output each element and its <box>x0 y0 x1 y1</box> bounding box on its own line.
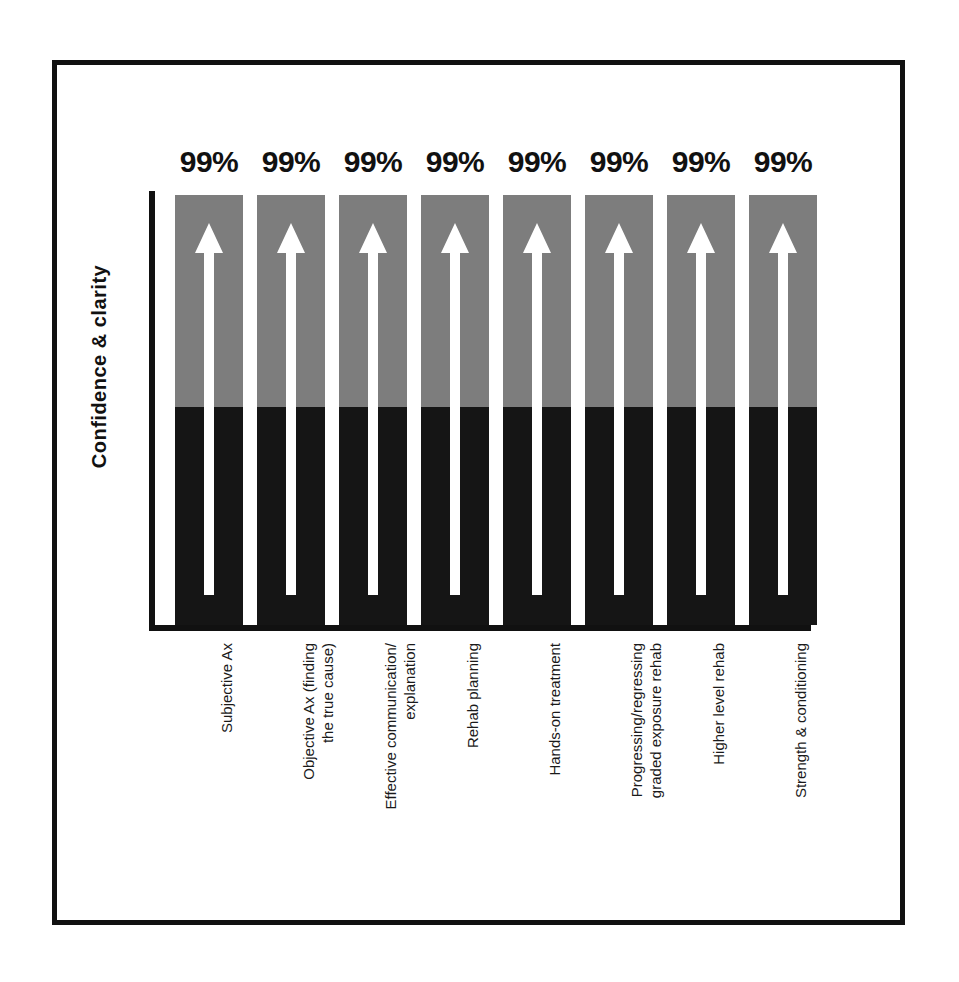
bar-value-label: 99% <box>426 145 485 179</box>
up-arrow-icon <box>358 223 388 595</box>
bar-group: 99% <box>667 195 735 625</box>
bar-value-label: 99% <box>754 145 813 179</box>
bar-group: 99% <box>421 195 489 625</box>
x-tick-label: Effective communication/ explanation <box>381 643 419 943</box>
x-tick-label: Rehab planning <box>463 643 482 943</box>
up-arrow-icon <box>440 223 470 595</box>
bar-value-label: 99% <box>180 145 239 179</box>
bar-group: 99% <box>749 195 817 625</box>
bar-value-label: 99% <box>672 145 731 179</box>
bars-layer: 99% 99% <box>57 65 910 930</box>
bar-column <box>421 195 489 625</box>
bar-group: 99% <box>339 195 407 625</box>
bar-group: 99% <box>257 195 325 625</box>
up-arrow-icon <box>686 223 716 595</box>
bar-column <box>175 195 243 625</box>
bar-column <box>585 195 653 625</box>
x-tick-label: Strength & conditioning <box>791 643 810 943</box>
up-arrow-icon <box>194 223 224 595</box>
up-arrow-icon <box>276 223 306 595</box>
bar-column <box>749 195 817 625</box>
bar-column <box>339 195 407 625</box>
x-tick-label: Hands-on treatment <box>545 643 564 943</box>
up-arrow-icon <box>522 223 552 595</box>
chart-plot-area: Confidence & clarity 99% 99% <box>57 65 910 930</box>
figure-frame: Confidence & clarity 99% 99% <box>52 60 905 925</box>
bar-group: 99% <box>585 195 653 625</box>
bar-value-label: 99% <box>590 145 649 179</box>
x-tick-label: Progressing/regressing graded exposure r… <box>627 643 665 943</box>
bar-column <box>257 195 325 625</box>
up-arrow-icon <box>604 223 634 595</box>
bar-column <box>667 195 735 625</box>
x-tick-label: Higher level rehab <box>709 643 728 943</box>
bar-group: 99% <box>175 195 243 625</box>
bar-column <box>503 195 571 625</box>
bar-group: 99% <box>503 195 571 625</box>
bar-value-label: 99% <box>262 145 321 179</box>
x-tick-label: Objective Ax (finding the true cause) <box>299 643 337 943</box>
x-tick-label: Subjective Ax <box>217 643 236 943</box>
up-arrow-icon <box>768 223 798 595</box>
bar-value-label: 99% <box>508 145 567 179</box>
bar-value-label: 99% <box>344 145 403 179</box>
